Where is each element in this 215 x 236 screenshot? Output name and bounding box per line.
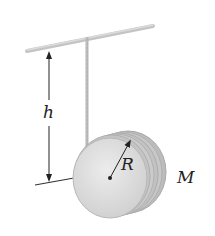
mass-label: M: [176, 167, 195, 187]
height-label: h: [43, 102, 54, 122]
string: [86, 37, 87, 146]
radius-label: R: [120, 154, 134, 174]
center-dot: [108, 176, 112, 180]
reference-line: [35, 178, 74, 185]
support-bar: [27, 25, 153, 51]
height-dimension: h: [43, 55, 54, 178]
spool-diagram: h R M: [0, 0, 215, 236]
